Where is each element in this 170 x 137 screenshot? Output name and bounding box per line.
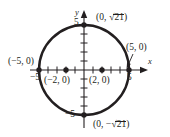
- point-bottom-0-neg-sqrt21: [81, 112, 86, 117]
- y-axis-label: y: [75, 8, 79, 17]
- point-top-0-sqrt21: [81, 22, 86, 27]
- circle-graph-figure: y x 5 −5 −5 5 (0, √21) (0, −√21) (−5, 0)…: [0, 0, 170, 137]
- label-top-suffix: ): [124, 12, 127, 22]
- label-bottom-prefix: (0, −: [93, 119, 111, 129]
- label-point-left: (−5, 0): [8, 57, 34, 67]
- x-axis-label: x: [148, 57, 152, 66]
- label-point-inner-right: (2, 0): [89, 76, 110, 86]
- graph-canvas: [0, 0, 170, 137]
- x-axis-arrowhead: [140, 67, 148, 73]
- point-inner-2-0: [99, 67, 104, 72]
- sqrt-icon-top: √21: [109, 13, 124, 23]
- y-tick-label-neg5: −5: [65, 110, 75, 120]
- label-top-prefix: (0,: [96, 12, 109, 22]
- y-axis-arrowhead: [81, 10, 87, 18]
- y-tick-label-5: 5: [74, 18, 79, 28]
- label-point-right: (5, 0): [126, 43, 147, 53]
- label-point-inner-left: (−2, 0): [44, 76, 70, 86]
- label-point-bottom: (0, −√21): [93, 120, 129, 130]
- point-inner-minus2-0: [63, 67, 68, 72]
- label-point-top: (0, √21): [96, 13, 127, 23]
- label-bottom-suffix: ): [126, 119, 129, 129]
- x-tick-label-neg5: −5: [30, 73, 40, 83]
- x-tick-label-5: 5: [127, 73, 132, 83]
- sqrt-icon-bottom: √21: [111, 120, 126, 130]
